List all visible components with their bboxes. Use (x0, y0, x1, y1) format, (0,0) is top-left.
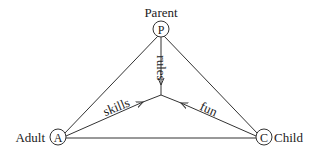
node-parent: P Parent (144, 5, 178, 37)
label-adult: Adult (15, 130, 45, 145)
edge-parent-adult (64, 36, 158, 134)
node-child: C Child (256, 129, 303, 145)
label-skills: skills (101, 95, 132, 119)
stub-skills (143, 95, 161, 102)
node-adult-letter: A (54, 131, 63, 145)
label-fun: fun (198, 99, 220, 120)
node-child-letter: C (260, 131, 268, 145)
triangle-diagram: P Parent A Adult C Child rules skills fu… (0, 0, 316, 156)
label-rules: rules (154, 55, 169, 80)
stub-fun (161, 95, 181, 103)
edge-parent-child (164, 36, 258, 134)
node-parent-letter: P (158, 23, 165, 37)
node-adult: A Adult (15, 129, 66, 145)
label-parent: Parent (144, 5, 178, 20)
label-child: Child (274, 130, 303, 145)
